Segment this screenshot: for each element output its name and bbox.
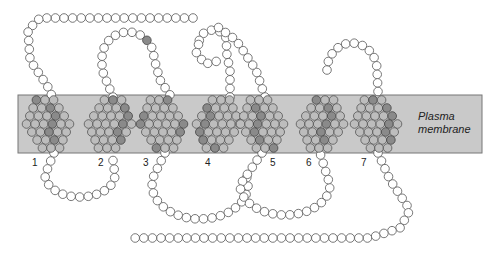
residue [341,40,350,49]
residue [286,211,295,220]
residue [191,234,200,243]
residue [129,14,138,23]
residue [242,128,251,137]
residue-highlighted [388,112,397,121]
residue-highlighted [203,104,212,113]
residue [53,128,62,137]
residue-highlighted [317,128,326,137]
residue [273,136,282,145]
residue [363,234,372,243]
residue [370,53,379,62]
membrane-label-line2: membrane [418,123,471,136]
residue [122,128,131,137]
residue [312,234,321,243]
residue [204,128,213,137]
residue [350,39,359,48]
residue [218,120,227,129]
residue [269,104,278,113]
residue [110,120,119,129]
residue [154,14,163,23]
residue [226,84,235,93]
residue [333,104,342,113]
residue [396,224,405,233]
residue [148,234,157,243]
residue [51,14,60,23]
residue-highlighted [113,128,122,137]
residue [44,83,53,92]
residue [302,112,311,121]
tm-number-1: 1 [32,157,38,168]
residue [142,128,151,137]
residue [22,120,31,129]
residue-highlighted [387,136,396,145]
residue [109,156,118,165]
residue [86,14,95,23]
residue [59,136,68,145]
residue [303,136,312,145]
residue [105,128,114,137]
residue [271,120,280,129]
residue [94,144,103,153]
residue-highlighted [119,120,128,129]
residue [277,234,286,243]
residue [43,165,52,174]
residue [238,177,247,186]
residue [198,112,207,121]
residue [359,120,368,129]
residue [255,96,264,105]
residue [208,214,217,223]
residue [120,14,129,23]
residue-highlighted [121,104,130,113]
residue [377,157,386,166]
residue [128,28,137,37]
residue [166,207,175,216]
residue [157,112,166,121]
residue [380,229,389,238]
residue [214,23,223,32]
residue [84,192,93,201]
residue [306,144,315,153]
residue [108,136,117,145]
residue-highlighted [383,104,392,113]
residue-highlighted [48,120,57,129]
residue [260,234,269,243]
residue [325,184,334,193]
residue [319,159,328,168]
residue [155,136,164,145]
residue [147,136,156,145]
residue [224,58,233,67]
residue-highlighted [255,136,264,145]
residue [393,120,402,129]
residue [373,70,382,79]
residue-highlighted [46,104,55,113]
residue [240,112,249,121]
residue [381,164,390,173]
residue [191,215,200,224]
residue [376,120,385,129]
residue [212,57,221,66]
residue [200,234,209,243]
residue [55,104,64,113]
residue [259,128,268,137]
residue [101,120,110,129]
residue [43,14,52,23]
residue [31,120,40,129]
residue [294,209,303,218]
residue [230,128,239,137]
residue [119,28,128,37]
residue-highlighted [136,120,145,129]
residue [163,14,172,23]
residue [90,112,99,121]
residue [157,234,166,243]
tm-number-4: 4 [205,157,211,168]
residue [375,144,384,153]
residue-highlighted [327,112,336,121]
residue [279,120,288,129]
residue [111,144,120,153]
residue [93,120,102,129]
residue [208,234,217,243]
residue [248,112,257,121]
residue [373,79,382,88]
residue [379,112,388,121]
residue [67,192,76,201]
